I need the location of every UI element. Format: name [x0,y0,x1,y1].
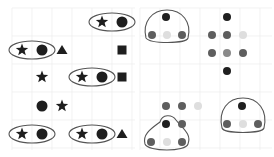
dot-dark [162,120,170,128]
dot-light [163,138,171,146]
dot-medium [178,120,186,128]
dot-medium [148,31,156,39]
star-icon [16,44,28,56]
dot-light [194,102,202,110]
diagram-canvas [0,0,274,157]
star-icon [76,128,88,140]
dot-medium [223,120,231,128]
triangle-icon [57,45,68,54]
circle-icon [37,101,48,112]
star-icon [56,100,68,112]
circle-icon [37,45,48,56]
dot-medium [178,102,186,110]
dot-medium [223,31,231,39]
dot-light [239,120,247,128]
star-icon [76,71,88,83]
right-panel-dots [144,10,264,150]
star-icon [16,128,28,140]
dot-dark [223,67,231,75]
dot-light [163,31,171,39]
dot-dark [223,13,231,21]
dot-dark [238,102,246,110]
square-icon [118,73,127,82]
circle-icon [97,129,108,140]
dot-medium [178,138,186,146]
dot-light [239,31,247,39]
dot-medium [162,102,170,110]
dot-medium [208,49,216,57]
circle-icon [97,72,108,83]
circle-icon [117,17,128,28]
dot-medium [147,138,155,146]
dot-mid_light [223,49,231,57]
dot-medium [254,120,262,128]
square-icon [118,46,127,55]
triangle-icon [117,129,128,138]
dot-medium [239,49,247,57]
star-icon [96,16,108,28]
star-icon [36,71,48,83]
circle-icon [37,129,48,140]
dot-medium [178,31,186,39]
dot-medium [208,31,216,39]
dot-dark [162,13,170,21]
